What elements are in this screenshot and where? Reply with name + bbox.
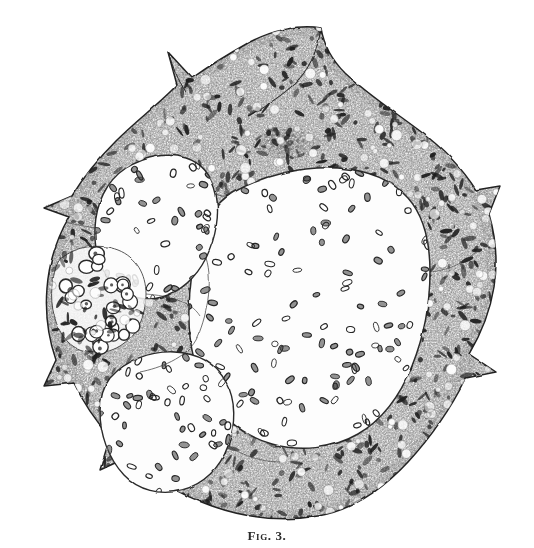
- stroma-vacuole: [470, 402, 477, 409]
- stroma-vacuole: [74, 116, 82, 124]
- stroma-vacuole: [164, 215, 175, 226]
- stroma-nucleus: [39, 115, 45, 119]
- stroma-vacuole: [139, 415, 144, 420]
- stroma-vacuole: [479, 176, 487, 184]
- stroma-vacuole: [166, 117, 175, 126]
- stroma-vacuole: [248, 293, 258, 303]
- stroma-nucleus: [156, 371, 158, 378]
- stroma-vacuole: [505, 162, 511, 168]
- stroma-vacuole: [367, 83, 375, 91]
- stroma-vacuole: [49, 98, 55, 104]
- stroma-vacuole: [193, 409, 202, 418]
- stroma-vacuole: [186, 444, 191, 449]
- stroma-vacuole: [312, 454, 319, 461]
- stroma-vacuole: [192, 143, 202, 153]
- cluster-cell-nucleus: [110, 283, 113, 286]
- stroma-vacuole: [248, 58, 255, 65]
- stroma-vacuole: [231, 391, 240, 400]
- stroma-vacuole: [498, 173, 506, 181]
- stroma-vacuole: [86, 50, 95, 59]
- stroma-vacuole: [163, 448, 172, 457]
- stroma-vacuole: [135, 152, 144, 161]
- stroma-vacuole: [440, 39, 448, 47]
- stroma-vacuole: [377, 345, 382, 350]
- stroma-vacuole: [337, 21, 348, 32]
- stroma-vacuole: [346, 251, 351, 256]
- stroma-vacuole: [506, 449, 516, 459]
- lumen-nucleus: [303, 176, 310, 181]
- stroma-vacuole: [181, 314, 190, 323]
- stroma-vacuole: [60, 385, 68, 393]
- stroma-vacuole: [187, 165, 194, 172]
- stroma-vacuole: [70, 235, 75, 240]
- stroma-vacuole: [203, 437, 212, 446]
- stroma-vacuole: [55, 178, 65, 188]
- stroma-vacuole: [48, 282, 56, 290]
- stroma-vacuole: [371, 334, 382, 345]
- stroma-vacuole: [376, 53, 387, 64]
- stroma-vacuole: [57, 161, 64, 168]
- stroma-vacuole: [202, 486, 210, 494]
- stroma-vacuole: [193, 93, 201, 101]
- stroma-nucleus: [279, 414, 281, 421]
- stroma-vacuole: [370, 352, 379, 361]
- stroma-vacuole: [429, 472, 440, 483]
- stroma-vacuole: [501, 141, 510, 150]
- stroma-vacuole: [42, 314, 47, 319]
- stroma-vacuole: [384, 182, 393, 191]
- stroma-vacuole: [343, 305, 349, 311]
- stroma-vacuole: [142, 230, 151, 239]
- stroma-vacuole: [179, 392, 189, 402]
- stroma-vacuole: [344, 312, 350, 318]
- stroma-vacuole: [275, 307, 283, 315]
- stroma-vacuole: [323, 485, 333, 495]
- stroma-vacuole: [295, 228, 304, 237]
- stroma-vacuole: [273, 380, 281, 388]
- stroma-vacuole: [482, 215, 490, 223]
- stroma-vacuole: [271, 27, 280, 36]
- stroma-vacuole: [244, 130, 250, 136]
- stroma-vacuole: [344, 36, 351, 43]
- stroma-vacuole: [292, 198, 303, 209]
- stroma-vacuole: [443, 303, 451, 311]
- stroma-vacuole: [249, 249, 254, 254]
- stroma-vacuole: [474, 85, 483, 94]
- stroma-vacuole: [468, 378, 473, 383]
- stroma-vacuole: [54, 520, 61, 527]
- stroma-vacuole: [490, 336, 499, 345]
- cluster-cell-nucleus: [107, 334, 110, 337]
- stroma-vacuole: [241, 491, 249, 499]
- stroma-vacuole: [230, 257, 237, 264]
- stroma-vacuole: [175, 51, 185, 61]
- stroma-vacuole: [248, 374, 256, 382]
- stroma-vacuole: [457, 419, 463, 425]
- stroma-vacuole: [206, 519, 213, 526]
- stroma-vacuole: [245, 425, 256, 436]
- stroma-vacuole: [392, 122, 398, 128]
- stroma-vacuole: [300, 301, 308, 309]
- stroma-vacuole: [292, 338, 302, 348]
- stroma-nucleus: [460, 306, 473, 309]
- stroma-vacuole: [203, 92, 211, 100]
- stroma-vacuole: [331, 24, 338, 31]
- stroma-vacuole: [469, 222, 477, 230]
- stroma-vacuole: [224, 469, 233, 478]
- stroma-vacuole: [102, 118, 109, 125]
- cluster-ring-cell: [93, 254, 105, 264]
- stroma-vacuole: [380, 318, 387, 325]
- stroma-vacuole: [288, 383, 293, 388]
- stroma-vacuole: [97, 451, 105, 459]
- stroma-vacuole: [122, 16, 133, 27]
- stroma-vacuole: [372, 520, 380, 528]
- stroma-vacuole: [447, 445, 452, 450]
- stroma-vacuole: [470, 394, 476, 400]
- stroma-vacuole: [120, 315, 130, 325]
- stroma-vacuole: [90, 288, 101, 299]
- stroma-vacuole: [177, 518, 183, 524]
- stroma-vacuole: [485, 435, 491, 441]
- stroma-vacuole: [325, 507, 335, 517]
- stroma-vacuole: [162, 129, 169, 136]
- stroma-vacuole: [276, 158, 284, 166]
- stroma-vacuole: [52, 454, 59, 461]
- stroma-vacuole: [195, 400, 203, 408]
